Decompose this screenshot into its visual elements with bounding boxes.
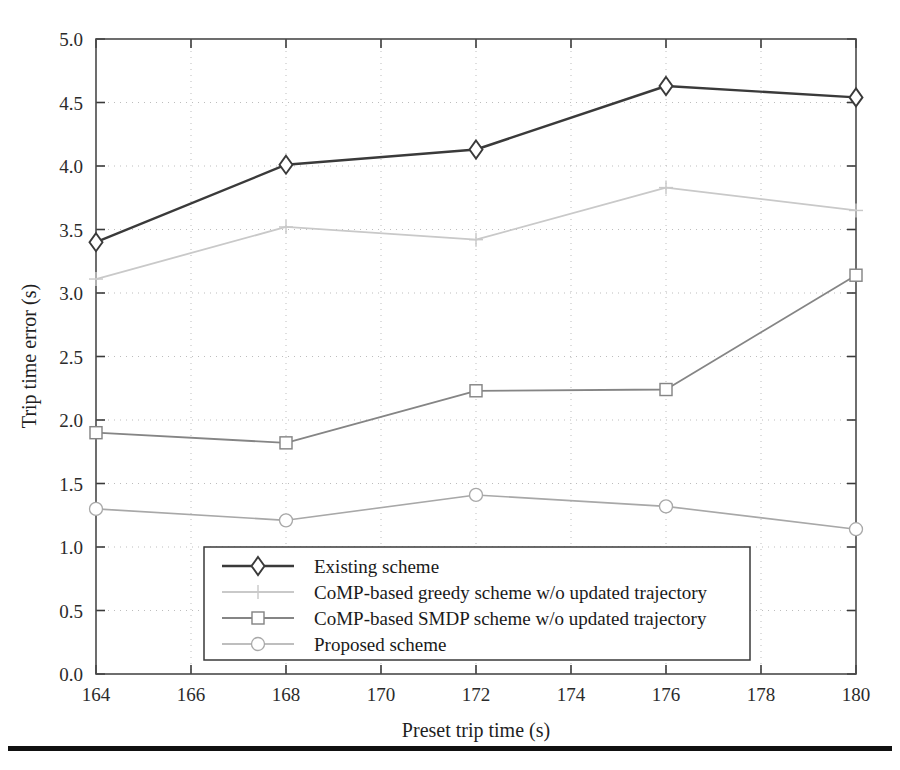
x-tick-label: 174: [557, 684, 586, 705]
x-tick-label: 176: [652, 684, 681, 705]
y-tick-label: 2.0: [59, 410, 83, 431]
y-axis-title: Trip time error (s): [18, 284, 41, 428]
data-point-marker-circle: [90, 502, 103, 515]
legend-box: [204, 547, 750, 660]
x-axis-title: Preset trip time (s): [402, 719, 550, 742]
data-point-marker-square: [850, 269, 862, 281]
y-tick-label: 4.5: [59, 93, 83, 114]
y-tick-label: 3.0: [59, 283, 83, 304]
x-tick-label: 166: [177, 684, 206, 705]
y-tick-label: 1.5: [59, 474, 83, 495]
data-point-marker-square: [252, 612, 264, 624]
y-tick-label: 3.5: [59, 220, 83, 241]
chart-legend[interactable]: Existing schemeCoMP-based greedy scheme …: [204, 547, 750, 660]
legend-label: CoMP-based SMDP scheme w/o updated traje…: [314, 608, 707, 629]
data-point-marker-square: [660, 384, 672, 396]
data-point-marker-square: [280, 437, 292, 449]
data-point-marker-circle: [470, 488, 483, 501]
x-tick-label: 180: [842, 684, 871, 705]
data-point-marker-circle: [660, 500, 673, 513]
x-tick-label: 168: [272, 684, 301, 705]
figure-separator-rule: [8, 746, 892, 751]
y-tick-label: 1.0: [59, 537, 83, 558]
data-point-marker-square: [470, 385, 482, 397]
x-tick-label: 172: [462, 684, 491, 705]
data-point-marker-circle: [280, 514, 293, 527]
data-point-marker-circle: [252, 638, 265, 651]
data-point-marker-square: [90, 427, 102, 439]
x-axis-tick-labels: 164166168170172174176178180: [82, 684, 871, 705]
x-tick-label: 170: [367, 684, 396, 705]
y-tick-label: 4.0: [59, 156, 83, 177]
x-tick-label: 164: [82, 684, 111, 705]
y-tick-label: 5.0: [59, 29, 83, 50]
y-tick-label: 0.5: [59, 601, 83, 622]
figure-container: 0.00.51.01.52.02.53.03.54.04.55.0 164166…: [0, 0, 900, 770]
y-tick-label: 2.5: [59, 347, 83, 368]
legend-label: Existing scheme: [314, 556, 439, 577]
x-tick-label: 178: [747, 684, 776, 705]
legend-label: Proposed scheme: [314, 634, 446, 655]
legend-label: CoMP-based greedy scheme w/o updated tra…: [314, 582, 708, 603]
data-point-marker-circle: [850, 523, 863, 536]
y-tick-label: 0.0: [59, 664, 83, 685]
line-chart: 0.00.51.01.52.02.53.03.54.04.55.0 164166…: [0, 0, 900, 770]
